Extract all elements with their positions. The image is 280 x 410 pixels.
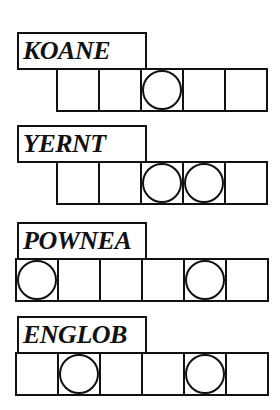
answer-cell-circled[interactable]: [59, 354, 101, 394]
answer-cells: [56, 161, 268, 205]
answer-cell-circled[interactable]: [17, 260, 59, 300]
scrambled-word: YERNT: [19, 131, 106, 157]
answer-cell-circled[interactable]: [142, 70, 184, 110]
answer-cell-circled[interactable]: [185, 260, 227, 300]
answer-cell[interactable]: [227, 260, 269, 300]
answer-cell[interactable]: [226, 70, 268, 110]
circle-marker-icon: [185, 260, 225, 300]
circle-marker-icon: [142, 70, 182, 110]
scrambled-word: KOANE: [19, 38, 110, 64]
answer-cell[interactable]: [58, 163, 100, 203]
answer-cell[interactable]: [101, 354, 143, 394]
answer-cell-circled[interactable]: [184, 163, 226, 203]
scrambled-word-box: YERNT: [17, 125, 147, 163]
scrambled-word-box: POWNEA: [17, 222, 147, 260]
scrambled-word: POWNEA: [19, 228, 131, 254]
answer-cells: [15, 258, 269, 302]
answer-cell-circled[interactable]: [142, 163, 184, 203]
circle-marker-icon: [142, 163, 182, 203]
answer-cell[interactable]: [184, 70, 226, 110]
circle-marker-icon: [59, 354, 99, 394]
answer-cell[interactable]: [143, 354, 185, 394]
circle-marker-icon: [17, 260, 57, 300]
scrambled-word-box: ENGLOB: [17, 316, 147, 354]
answer-cell-circled[interactable]: [185, 354, 227, 394]
answer-cell[interactable]: [100, 70, 142, 110]
answer-cell[interactable]: [58, 70, 100, 110]
answer-cell[interactable]: [17, 354, 59, 394]
answer-cell[interactable]: [100, 163, 142, 203]
answer-cell[interactable]: [143, 260, 185, 300]
answer-cell[interactable]: [59, 260, 101, 300]
answer-cells: [15, 352, 269, 396]
answer-cells: [56, 68, 268, 112]
answer-cell[interactable]: [227, 354, 269, 394]
answer-cell[interactable]: [101, 260, 143, 300]
scrambled-word-box: KOANE: [17, 32, 147, 70]
circle-marker-icon: [185, 354, 225, 394]
circle-marker-icon: [184, 163, 224, 203]
scrambled-word: ENGLOB: [19, 322, 127, 348]
answer-cell[interactable]: [226, 163, 268, 203]
